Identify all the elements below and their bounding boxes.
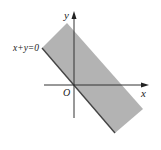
coordinate-diagram: y x O x+y=0 (0, 0, 161, 150)
y-axis-arrow-icon (72, 11, 77, 19)
y-axis-label: y (63, 9, 69, 21)
boundary-line-label: x+y=0 (12, 43, 39, 53)
diagram-canvas: y x O x+y=0 (0, 0, 161, 150)
shaded-region (42, 23, 143, 133)
x-axis-label: x (140, 87, 146, 99)
origin-label: O (63, 87, 70, 98)
